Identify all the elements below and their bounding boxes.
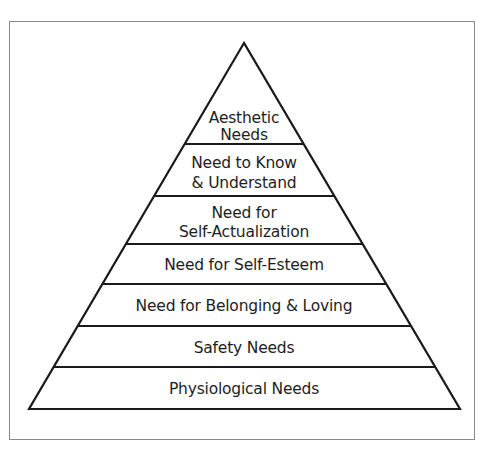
tier-label-line: & Understand <box>192 174 297 192</box>
tier-label-line: Aesthetic <box>209 109 280 127</box>
tier-self-actualization: Need for Self-Actualization <box>179 204 309 241</box>
tier-self-esteem: Need for Self-Esteem <box>164 256 324 274</box>
tier-label-line: Needs <box>220 126 268 144</box>
tier-label-line: Need for Self-Esteem <box>164 256 324 274</box>
tier-label-line: Need for Belonging & Loving <box>136 297 353 315</box>
tier-label-line: Need to Know <box>191 154 297 172</box>
hierarchy-pyramid: Aesthetic Needs Need to Know & Understan… <box>0 0 490 454</box>
tier-label-line: Safety Needs <box>194 339 295 357</box>
tier-belonging-loving: Need for Belonging & Loving <box>136 297 353 315</box>
tier-label-line: Physiological Needs <box>169 380 319 398</box>
tier-safety-needs: Safety Needs <box>194 339 295 357</box>
tier-label-line: Self-Actualization <box>179 223 309 241</box>
tier-aesthetic-needs: Aesthetic Needs <box>209 109 280 144</box>
tier-need-to-know: Need to Know & Understand <box>191 154 297 192</box>
tier-label-line: Need for <box>211 204 277 222</box>
tier-physiological-needs: Physiological Needs <box>169 380 319 398</box>
